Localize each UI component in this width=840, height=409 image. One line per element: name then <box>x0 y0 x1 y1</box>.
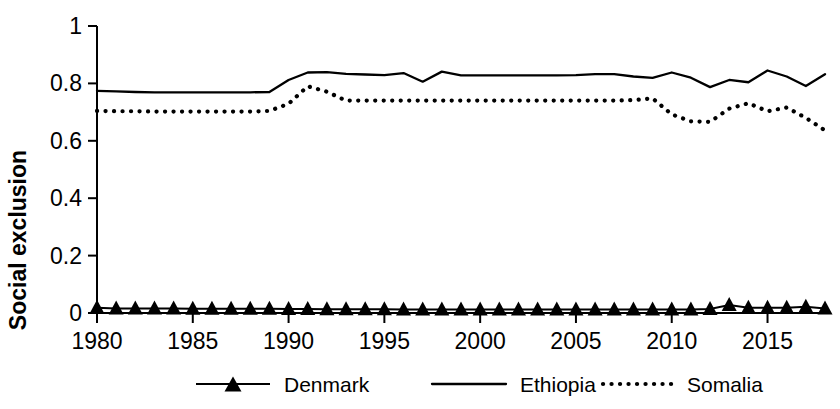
legend-label: Somalia <box>687 373 763 396</box>
chart-figure: Social exclusion 00.20.40.60.81 19801985… <box>0 0 840 409</box>
x-tick-label: 1980 <box>71 328 122 354</box>
y-tick-label: 0.4 <box>50 185 82 211</box>
x-tick-label: 2005 <box>550 328 601 354</box>
y-tick-label: 0.8 <box>50 70 82 96</box>
y-tick-label: 0 <box>69 300 82 326</box>
x-tick-label: 2015 <box>742 328 793 354</box>
x-tick-label: 2010 <box>646 328 697 354</box>
x-tick-label: 2000 <box>455 328 506 354</box>
x-tick-label: 1995 <box>359 328 410 354</box>
legend-label: Ethiopia <box>520 373 596 396</box>
y-tick-label: 1 <box>69 13 82 39</box>
chart-background <box>0 0 840 409</box>
legend-label: Denmark <box>284 373 370 396</box>
x-tick-label: 1985 <box>167 328 218 354</box>
x-tick-label: 1990 <box>263 328 314 354</box>
y-tick-label: 0.6 <box>50 128 82 154</box>
y-axis-label: Social exclusion <box>5 150 31 330</box>
y-tick-label: 0.2 <box>50 243 82 269</box>
chart-canvas: Social exclusion 00.20.40.60.81 19801985… <box>0 0 840 409</box>
